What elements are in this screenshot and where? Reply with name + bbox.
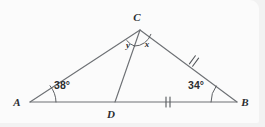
angle-label-x: x [144, 39, 150, 49]
geometry-diagram: A B C D 38° 34° y x [0, 0, 259, 123]
angle-label-B: 34° [188, 79, 204, 91]
angle-label-A: 38° [54, 79, 70, 91]
vertex-label-C: C [133, 11, 141, 23]
vertex-label-D: D [106, 108, 115, 120]
segment-AC [30, 30, 140, 102]
tick-mark [193, 58, 199, 66]
figure-card: A B C D 38° 34° y x [0, 0, 265, 127]
tick-mark [189, 56, 195, 64]
tick-segment-CB [189, 56, 198, 66]
vertex-label-B: B [240, 96, 248, 108]
vertex-label-A: A [12, 96, 20, 108]
angle-arc-B [211, 86, 216, 102]
angle-label-y: y [125, 40, 131, 50]
figure-canvas: A B C D 38° 34° y x [0, 0, 259, 123]
segment-CB [140, 30, 237, 102]
